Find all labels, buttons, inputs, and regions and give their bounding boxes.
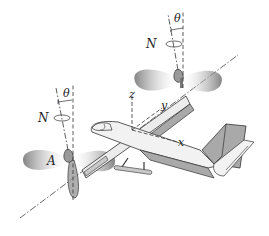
tail <box>202 124 254 176</box>
label-N-left: N <box>37 111 49 125</box>
right-rotor <box>134 66 224 94</box>
spin-arrow-icon <box>54 115 70 121</box>
label-theta-right: θ <box>174 12 181 25</box>
label-A: A <box>46 154 56 168</box>
label-y: y <box>160 99 168 112</box>
label-x: x <box>178 136 185 149</box>
tilt-rotor-diagram: θ θ N N A z y x <box>0 0 269 236</box>
label-z: z <box>128 88 135 101</box>
label-theta-left: θ <box>63 87 70 100</box>
label-N-right: N <box>145 37 157 51</box>
landing-gear <box>114 158 152 175</box>
